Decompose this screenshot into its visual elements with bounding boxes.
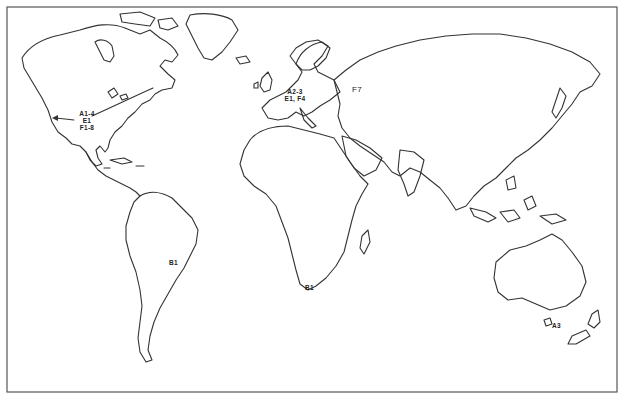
central-america-outline: [86, 152, 140, 196]
madagascar-outline: [360, 230, 370, 254]
australia-outline: [494, 234, 586, 310]
north-america-outline: [22, 25, 178, 166]
label-north-america: A1-4 E1 F1-8: [74, 110, 100, 131]
migration-arrow: [92, 88, 153, 116]
tasmania-outline: [544, 318, 552, 326]
great-lakes-outline: [108, 88, 128, 100]
scandinavia-outline: [296, 42, 330, 70]
label-africa: B1: [305, 284, 314, 291]
southeast-asia-islands-outline: [470, 176, 566, 224]
label-na-line1: A1-4: [74, 110, 100, 117]
world-map: [0, 0, 625, 417]
label-af-line1: B1: [305, 284, 314, 291]
arctic-islands-outline: [120, 12, 178, 30]
label-sa-line1: B1: [169, 259, 178, 266]
label-na-line2: E1: [74, 117, 100, 124]
india-outline: [398, 150, 424, 196]
arrow-west-segment: [56, 118, 74, 120]
arrowhead-icon: [52, 115, 58, 121]
label-eu-line2: E1, F4: [281, 95, 309, 102]
label-asia: F7: [352, 86, 362, 93]
hudson-bay-outline: [95, 40, 114, 62]
arabia-outline: [342, 136, 382, 176]
caribbean-islands-outline: [104, 158, 144, 168]
label-south-america: B1: [169, 259, 178, 266]
new-zealand-outline: [568, 310, 600, 344]
label-tasmania: A3: [552, 322, 561, 329]
label-europe: A2-3 E1, F4: [281, 88, 309, 102]
label-eu-line1: A2-3: [281, 88, 309, 95]
label-na-line3: F1-8: [74, 124, 100, 131]
asia-outline: [334, 34, 600, 210]
africa-outline: [240, 126, 368, 290]
british-isles-outline: [254, 72, 272, 92]
south-america-outline: [126, 192, 198, 362]
label-tas-line1: A3: [552, 322, 561, 329]
iceland-outline: [236, 56, 250, 64]
label-asia-line1: F7: [352, 85, 362, 94]
greenland-outline: [186, 14, 238, 60]
